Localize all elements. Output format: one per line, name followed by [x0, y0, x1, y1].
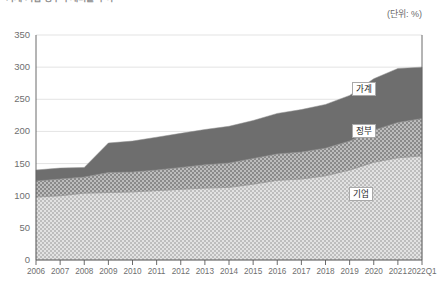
y-axis-tick-label: 50: [2, 222, 30, 233]
legend-item-government: 정부: [352, 124, 376, 138]
y-axis-tick-label: 200: [2, 125, 30, 136]
y-axis-tick-label: 150: [2, 158, 30, 169]
chart-x-tickmarks: [36, 260, 422, 265]
chart-areas: [36, 67, 422, 260]
y-axis-tick-label: 300: [2, 61, 30, 72]
y-axis-tick-label: 350: [2, 29, 30, 40]
x-axis-tick-label: 2022Q1: [405, 267, 439, 276]
y-axis-tick-label: 250: [2, 93, 30, 104]
y-axis-tick-label: 100: [2, 190, 30, 201]
legend-item-household: 가계: [352, 82, 376, 96]
y-axis-tick-label: 0: [2, 254, 30, 265]
legend-item-corporate: 기업: [349, 187, 373, 201]
